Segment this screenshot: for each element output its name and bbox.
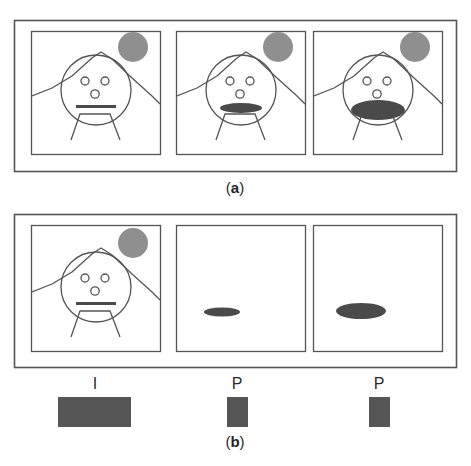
figure-svg: (a) <box>0 0 471 466</box>
frame-type-label-i: I <box>93 375 97 392</box>
mouth <box>76 302 116 305</box>
mouth <box>351 100 405 120</box>
subfigure-b-caption: (b) <box>225 433 244 450</box>
bitrate-bar-i <box>58 397 131 427</box>
sun <box>118 228 148 258</box>
frame-type-label-p-2: P <box>374 375 385 392</box>
caption-close-paren: ) <box>239 179 244 196</box>
bitrate-bar-p-2 <box>369 397 390 427</box>
sun <box>118 32 148 62</box>
sun <box>263 32 293 62</box>
figure-container: (a) <box>0 0 471 466</box>
sun <box>400 32 430 62</box>
frame-type-label-p-1: P <box>232 375 243 392</box>
mouth <box>76 105 116 108</box>
subfigure-a-caption: (a) <box>226 179 244 196</box>
mouth <box>220 103 262 113</box>
caption-letter: b <box>230 433 239 450</box>
caption-close-paren: ) <box>240 433 245 450</box>
residual-ellipse <box>336 303 386 319</box>
residual-ellipse <box>204 308 240 317</box>
bitrate-bar-p-1 <box>227 397 248 427</box>
figure-background <box>0 0 471 466</box>
